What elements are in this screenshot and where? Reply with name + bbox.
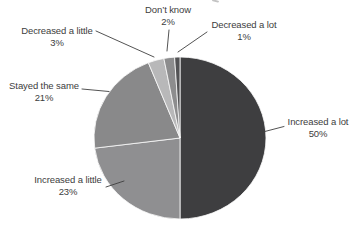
slice-label-increased-a-lot: Increased a lot 50%	[288, 116, 349, 140]
slice-label-dont-know: Don’t know 2%	[145, 4, 191, 28]
slice-percent-text: 3%	[21, 37, 93, 49]
slice-label-text: Decreased a little	[21, 25, 93, 37]
slice-label-increased-a-little: Increased a little 23%	[34, 174, 101, 198]
leader-line-2	[82, 89, 109, 92]
slice-label-text: Stayed the same	[9, 80, 79, 92]
slice-label-decreased-a-lot: Decreased a lot 1%	[211, 19, 276, 43]
slice-label-text: Increased a lot	[288, 116, 349, 128]
slice-label-text: Don’t know	[145, 4, 191, 16]
slice-percent-text: 23%	[34, 186, 101, 198]
pie-slice-increased-a-little	[95, 138, 180, 219]
slice-percent-text: 1%	[211, 31, 276, 43]
slice-percent-text: 2%	[145, 16, 191, 28]
leader-line-4	[167, 30, 169, 51]
pie-chart-figure: Increased a lot 50% Increased a little 2…	[0, 0, 356, 225]
slice-label-stayed-the-same: Stayed the same 21%	[9, 80, 79, 104]
leader-line-3	[96, 31, 154, 57]
slice-percent-text: 21%	[9, 92, 79, 104]
slice-label-decreased-a-little: Decreased a little 3%	[21, 25, 93, 49]
pie-slice-increased-a-lot	[180, 57, 266, 219]
slice-label-text: Decreased a lot	[211, 19, 276, 31]
slice-percent-text: 50%	[288, 128, 349, 140]
leader-line-5	[178, 32, 207, 52]
slice-label-text: Increased a little	[34, 174, 101, 186]
